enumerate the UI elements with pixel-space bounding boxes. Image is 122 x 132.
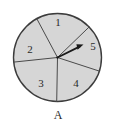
spinner-figure: 1 2 3 4 5 A (0, 0, 122, 132)
spinner-diagram: 1 2 3 4 5 A (0, 0, 122, 132)
sector-label-5: 5 (90, 40, 96, 52)
pointer-pivot (56, 56, 58, 58)
sector-label-4: 4 (73, 77, 79, 89)
sector-label-3: 3 (38, 77, 44, 89)
sector-label-2: 2 (27, 43, 33, 55)
sector-label-1: 1 (55, 16, 61, 28)
figure-caption: A (54, 108, 63, 122)
